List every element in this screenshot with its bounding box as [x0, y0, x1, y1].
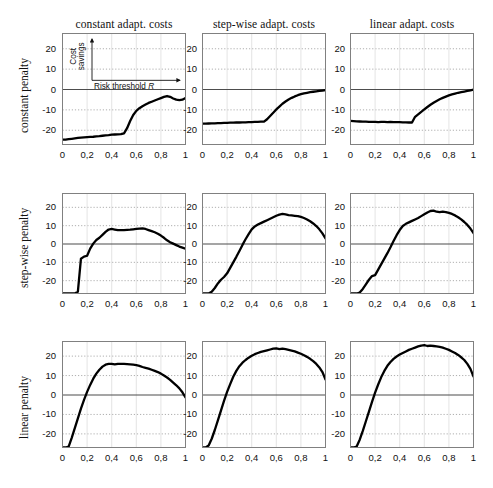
ytick-label-r3-c3-4: -20 [324, 428, 345, 439]
ytick-label-r2-c2-2: 0 [176, 238, 197, 249]
xtick-label-r3-c2-2: 0,4 [241, 452, 263, 463]
xtick-label-r2-c3-4: 0,8 [438, 298, 460, 309]
xtick-label-r3-c2-5: 1 [315, 452, 337, 463]
ytick-label-r1-c2-3: -10 [176, 104, 197, 115]
xtick-label-r3-c2-4: 0,8 [290, 452, 312, 463]
xtick-label-r2-c2-3: 0,6 [265, 298, 287, 309]
ytick-label-r2-c3-0: 20 [324, 201, 345, 212]
xtick-label-r3-c2-3: 0,6 [265, 452, 287, 463]
ytick-label-r1-1: 10 [28, 63, 56, 74]
panel-3-2 [202, 341, 326, 448]
xtick-label-r2-c1-1: 0,2 [76, 298, 98, 309]
ytick-label-r1-2: 0 [28, 84, 56, 95]
plot-area [350, 341, 474, 448]
ytick-label-r3-c3-0: 20 [324, 350, 345, 361]
ytick-label-r2-c2-1: 10 [176, 220, 197, 231]
xtick-label-r1-c3-3: 0,6 [413, 149, 435, 160]
xtick-label-r2-c3-1: 0,2 [364, 298, 386, 309]
xtick-label-r2-c1-4: 0,8 [150, 298, 172, 309]
xtick-label-r3-c3-0: 0 [340, 452, 362, 463]
xtick-label-r1-c2-4: 0,8 [290, 149, 312, 160]
xtick-label-r2-c2-5: 1 [315, 298, 337, 309]
ytick-label-r2-4: -20 [28, 275, 56, 286]
xtick-label-r1-c2-0: 0 [192, 149, 214, 160]
ytick-label-r3-c3-1: 10 [324, 370, 345, 381]
ytick-label-r1-4: -20 [28, 124, 56, 135]
xtick-label-r2-c3-5: 1 [463, 298, 485, 309]
xtick-label-r1-c1-2: 0,4 [101, 149, 123, 160]
xtick-label-r1-c3-4: 0,8 [438, 149, 460, 160]
panel-3-3 [350, 341, 474, 448]
ytick-label-r2-c2-3: -10 [176, 256, 197, 267]
xtick-label-r3-c1-2: 0,4 [101, 452, 123, 463]
panel-1-3 [350, 33, 474, 145]
panel-2-3 [350, 193, 474, 294]
ytick-label-r1-c2-2: 0 [176, 84, 197, 95]
ytick-label-r2-1: 10 [28, 220, 56, 231]
xtick-label-r3-c2-1: 0,2 [216, 452, 238, 463]
xtick-label-r1-c3-1: 0,2 [364, 149, 386, 160]
plot-area [350, 193, 474, 294]
inset-xlabel: Risk threshold R [94, 82, 154, 91]
xtick-label-r1-c3-5: 1 [463, 149, 485, 160]
panel-2-2 [202, 193, 326, 294]
column-title-3: linear adapt. costs [350, 18, 474, 30]
ytick-label-r2-c3-1: 10 [324, 220, 345, 231]
figure-panel-grid: constant adapt. costsstep-wise adapt. co… [0, 0, 493, 488]
ytick-label-r1-c2-1: 10 [176, 63, 197, 74]
ytick-label-r2-0: 20 [28, 201, 56, 212]
xtick-label-r3-c1-3: 0,6 [125, 452, 147, 463]
xtick-label-r1-c1-4: 0,8 [150, 149, 172, 160]
xtick-label-r3-c1-4: 0,8 [150, 452, 172, 463]
xtick-label-r3-c1-1: 0,2 [76, 452, 98, 463]
column-title-1: constant adapt. costs [62, 18, 186, 30]
ytick-label-r3-c2-0: 20 [176, 350, 197, 361]
ytick-label-r1-c3-1: 10 [324, 63, 345, 74]
ytick-label-r3-c2-1: 10 [176, 370, 197, 381]
xtick-label-r2-c3-3: 0,6 [413, 298, 435, 309]
ytick-label-r1-c3-4: -20 [324, 124, 345, 135]
xtick-label-r1-c2-5: 1 [315, 149, 337, 160]
xtick-label-r2-c1-0: 0 [52, 298, 74, 309]
ytick-label-r1-0: 20 [28, 43, 56, 54]
ytick-label-r3-c2-3: -10 [176, 408, 197, 419]
plot-area [202, 341, 326, 448]
ytick-label-r3-c2-2: 0 [176, 389, 197, 400]
inset-ylabel: Costsavings [70, 39, 87, 74]
xtick-label-r1-c2-3: 0,6 [265, 149, 287, 160]
ytick-label-r2-c2-0: 20 [176, 201, 197, 212]
plot-area [202, 33, 326, 145]
ytick-label-r2-3: -10 [28, 256, 56, 267]
xtick-label-r2-c3-0: 0 [340, 298, 362, 309]
ytick-label-r3-2: 0 [28, 389, 56, 400]
panel-3-1 [62, 341, 186, 448]
plot-area [202, 193, 326, 294]
ytick-label-r1-c3-2: 0 [324, 84, 345, 95]
xtick-label-r3-c3-1: 0,2 [364, 452, 386, 463]
ytick-label-r1-c3-0: 20 [324, 43, 345, 54]
plot-area [62, 341, 186, 448]
xtick-label-r1-c1-1: 0,2 [76, 149, 98, 160]
plot-area [62, 193, 186, 294]
xtick-label-r3-c2-0: 0 [192, 452, 214, 463]
ytick-label-r3-c2-4: -20 [176, 428, 197, 439]
ytick-label-r3-c3-3: -10 [324, 408, 345, 419]
xtick-label-r1-c2-1: 0,2 [216, 149, 238, 160]
ytick-label-r3-c3-2: 0 [324, 389, 345, 400]
ytick-label-r2-c2-4: -20 [176, 275, 197, 286]
ytick-label-r3-1: 10 [28, 370, 56, 381]
ytick-label-r1-c2-0: 20 [176, 43, 197, 54]
xtick-label-r3-c3-2: 0,4 [389, 452, 411, 463]
xtick-label-r3-c3-4: 0,8 [438, 452, 460, 463]
ytick-label-r1-c3-3: -10 [324, 104, 345, 115]
xtick-label-r1-c1-3: 0,6 [125, 149, 147, 160]
xtick-label-r2-c2-1: 0,2 [216, 298, 238, 309]
xtick-label-r3-c3-3: 0,6 [413, 452, 435, 463]
ytick-label-r1-3: -10 [28, 104, 56, 115]
xtick-label-r3-c1-0: 0 [52, 452, 74, 463]
column-title-2: step-wise adapt. costs [202, 18, 326, 30]
xtick-label-r1-c3-0: 0 [340, 149, 362, 160]
xtick-label-r2-c1-2: 0,4 [101, 298, 123, 309]
xtick-label-r2-c2-2: 0,4 [241, 298, 263, 309]
ytick-label-r1-c2-4: -20 [176, 124, 197, 135]
